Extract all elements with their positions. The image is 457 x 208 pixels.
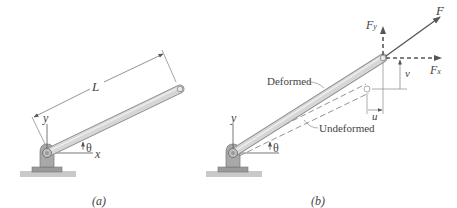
force-f-label: F [436,4,444,17]
disp-v-label: v [405,68,410,79]
panel-b [206,17,441,177]
base-plate-a [32,167,62,172]
force-fx-label: Fx [430,64,441,76]
undeformed-bar [236,84,370,156]
angle-label-b: θ [273,142,279,154]
y-axis-label-a: y [43,112,48,124]
truss-bar-diagram [0,0,457,208]
angle-label-a: θ [86,142,92,154]
force-arrow-f [386,17,440,56]
caption-b: (b) [311,195,325,207]
deformed-bar [233,56,383,153]
disp-u-label: u [372,111,378,122]
bar-a [47,87,180,153]
x-axis-label-a: x [95,148,100,160]
caption-a: (a) [92,195,106,207]
force-fy-label: Fy [366,19,377,31]
undeformed-label: Undeformed [319,123,375,134]
length-label: L [92,80,99,93]
deformed-label: Deformed [267,76,312,87]
y-axis-label-b: y [231,112,236,124]
base-plate-b [218,167,248,172]
